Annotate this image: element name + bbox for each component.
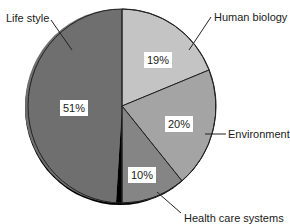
svg-text:19%: 19% [147,54,169,66]
svg-text:51%: 51% [63,102,85,114]
label-environment: Environment [228,128,290,140]
leader-human-biology [189,17,211,50]
label-human-biology: Human biology [214,11,288,23]
label-life-style: Life style [6,12,49,24]
pct-box-human-biology: 19% [144,52,172,68]
pct-box-health-care: 10% [128,167,156,183]
pct-box-environment: 20% [165,116,193,132]
pie-chart: 51% 19% 20% 10% Life style Human biology… [0,0,290,224]
pct-box-life-style: 51% [60,100,88,116]
svg-text:20%: 20% [168,118,190,130]
leader-health-care [157,192,181,213]
svg-text:10%: 10% [131,169,153,181]
label-health-care: Health care systems [184,212,284,224]
